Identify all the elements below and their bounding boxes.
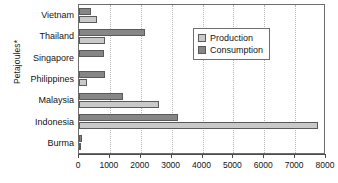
category-axis: VietnamThailandSingaporePhilippinesMalay… (8, 4, 78, 154)
bar-group (79, 132, 324, 153)
x-tick-label: 2000 (130, 160, 149, 170)
x-tick-label: 0 (76, 160, 81, 170)
x-tick-label: 8000 (316, 160, 335, 170)
x-tick (263, 154, 264, 158)
category-label: Malaysia (8, 90, 78, 111)
x-tick (202, 154, 203, 158)
bar-production (79, 37, 105, 44)
legend-item: Production (198, 32, 263, 44)
category-label: Singapore (8, 47, 78, 68)
bar-consumption (79, 71, 105, 78)
legend-swatch-consumption (198, 46, 206, 54)
legend: ProductionConsumption (193, 28, 270, 60)
x-tick (325, 154, 326, 158)
x-tick-label: 6000 (254, 160, 273, 170)
category-label: Burma (8, 133, 78, 154)
bar-consumption (79, 8, 91, 15)
x-tick-label: 4000 (192, 160, 211, 170)
bar-production (79, 79, 87, 86)
x-tick-label: 5000 (223, 160, 242, 170)
x-tick (140, 154, 141, 158)
plot-area (78, 4, 325, 154)
x-tick (232, 154, 233, 158)
category-label: Vietnam (8, 4, 78, 25)
bar-production (79, 143, 81, 150)
bar-consumption (79, 29, 145, 36)
bar-production (79, 101, 159, 108)
bar-chart: Petajoules* VietnamThailandSingaporePhil… (0, 0, 338, 183)
bar-group (79, 111, 324, 132)
bar-group (79, 68, 324, 89)
legend-label: Consumption (210, 45, 263, 55)
x-tick-label: 1000 (99, 160, 118, 170)
bar-consumption (79, 114, 178, 121)
category-label: Philippines (8, 68, 78, 89)
x-tick (171, 154, 172, 158)
x-tick-label: 7000 (285, 160, 304, 170)
legend-swatch-production (198, 34, 206, 42)
category-label: Indonesia (8, 111, 78, 132)
legend-item: Consumption (198, 44, 263, 56)
bar-consumption (79, 93, 123, 100)
x-tick (109, 154, 110, 158)
x-tick (294, 154, 295, 158)
legend-label: Production (210, 33, 253, 43)
x-tick-label: 3000 (161, 160, 180, 170)
bar-group (79, 5, 324, 26)
bar-group (79, 90, 324, 111)
x-tick (78, 154, 79, 158)
category-label: Thailand (8, 25, 78, 46)
bar-production (79, 122, 318, 129)
bar-consumption (79, 50, 104, 57)
bar-production (79, 16, 97, 23)
bar-consumption (79, 135, 82, 142)
